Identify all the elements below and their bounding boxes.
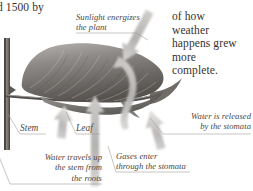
leader-leaf-diagonal xyxy=(66,112,76,134)
leader-water-up-diagonal xyxy=(0,154,10,184)
label-stem: Stem xyxy=(20,123,38,133)
vertical-stem xyxy=(4,38,16,150)
label-gases-enter-through-the-stomata: Gases enter through the stomata xyxy=(116,151,186,172)
leader-gases-diagonal xyxy=(108,146,116,172)
label-leaf: Leaf xyxy=(76,123,93,133)
body-text-right-column: of how weather happens grew more complet… xyxy=(172,10,237,78)
label-sunlight-energizes-the-plant: Sunlight energizes the plant xyxy=(76,12,140,33)
label-water-travels-up-the-stem: Water travels up the stem from the roots xyxy=(10,152,102,183)
label-water-is-released-by-the-stomata: Water is released by the stomata xyxy=(163,111,251,132)
scanned-textbook-page: d 1500 by of how weather happens grew mo… xyxy=(0,0,253,191)
body-text-left-fragment: d 1500 by xyxy=(0,1,44,15)
